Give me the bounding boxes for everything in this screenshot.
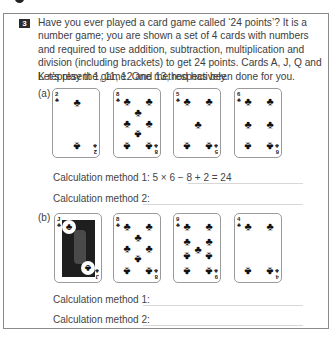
club-icon: ♣	[62, 220, 76, 234]
card-index: 4♣	[237, 216, 241, 228]
club-icon: ♣	[183, 251, 190, 262]
part-b-label: (b)	[38, 212, 50, 223]
club-icon: ♣	[205, 266, 212, 277]
club-icon: ♣	[194, 119, 201, 130]
club-icon: ♣	[73, 97, 80, 108]
club-icon: ♣	[134, 107, 141, 118]
answer-line[interactable]	[143, 204, 303, 205]
jack-face-image: ♣ ♣	[62, 220, 95, 277]
card-index: 9♣	[176, 216, 180, 228]
club-icon: ♣	[205, 221, 212, 232]
card-index: 8♣	[116, 216, 120, 228]
answer-line[interactable]	[143, 305, 303, 306]
club-icon: ♣	[183, 96, 190, 107]
club-icon: ♣	[205, 141, 212, 152]
card-b4: 4♣ ♣ ♣ ♣ ♣ 4♣	[234, 213, 282, 283]
club-icon: ♣	[145, 118, 152, 129]
card-b2: 8♣ ♣ ♣ ♣ ♣ ♣ ♣ ♣ ♣ 8♣	[113, 213, 161, 283]
club-icon: ♣	[266, 96, 273, 107]
club-icon: ♣	[266, 119, 273, 130]
club-icon: ♣	[123, 141, 130, 152]
question-number-badge: 3	[19, 19, 30, 28]
card-a2: 8♣ ♣ ♣ ♣ ♣ ♣ ♣ ♣ ♣ 8♣	[113, 88, 161, 158]
club-icon: ♣	[123, 96, 130, 107]
club-icon: ♣	[134, 232, 141, 243]
club-icon: ♣	[183, 141, 190, 152]
card-index: 4♣	[275, 268, 279, 280]
card-a1: 2♣ ♣ ♣ 2♣	[52, 88, 100, 158]
card-index: 5♣	[176, 91, 180, 103]
method-label: Calculation method 1:	[53, 294, 150, 305]
club-icon: ♣	[205, 236, 212, 247]
club-icon: ♣	[205, 96, 212, 107]
card-index: 8♣	[116, 91, 120, 103]
club-icon: ♣	[134, 254, 141, 265]
club-icon: ♣	[244, 96, 251, 107]
answer-line[interactable]	[143, 325, 303, 326]
club-icon: ♣	[244, 221, 251, 232]
part-a-method-1: Calculation method 1: 5 × 6 − 8 + 2 = 24	[53, 172, 231, 183]
club-icon: ♣	[145, 266, 152, 277]
club-icon: ♣	[123, 118, 130, 129]
club-icon: ♣	[145, 243, 152, 254]
club-icon: ♣	[145, 221, 152, 232]
club-icon: ♣	[81, 261, 95, 275]
club-icon: ♣	[266, 221, 273, 232]
method-label: Calculation method 2:	[53, 193, 150, 204]
card-index: 9♣	[214, 268, 218, 280]
card-index: 5♣	[214, 143, 218, 155]
method-label: Calculation method 2:	[53, 314, 150, 325]
part-b-method-2: Calculation method 2:	[53, 314, 150, 325]
club-icon: ♣	[123, 243, 130, 254]
part-a-label: (a)	[38, 88, 50, 99]
club-icon: ♣	[244, 266, 251, 277]
answer-line[interactable]	[188, 183, 303, 184]
club-icon: ♣	[194, 244, 201, 255]
card-index: J♣	[57, 216, 61, 228]
question-lead-text: Let’s play the game. One method has been…	[38, 71, 295, 82]
club-icon: ♣	[244, 141, 251, 152]
card-a3: 5♣ ♣ ♣ ♣ ♣ ♣ 5♣	[173, 88, 221, 158]
card-b1: ♣ ♣ J♣ J♣	[54, 213, 102, 283]
bullet-marker	[15, 0, 24, 3]
method-label: Calculation method 1:	[53, 172, 150, 183]
club-icon: ♣	[266, 141, 273, 152]
club-icon: ♣	[266, 266, 273, 277]
part-b-method-1: Calculation method 1:	[53, 294, 150, 305]
club-icon: ♣	[134, 129, 141, 140]
card-index: 6♣	[237, 91, 241, 103]
card-index: 6♣	[275, 143, 279, 155]
club-icon: ♣	[183, 236, 190, 247]
card-index: 8♣	[154, 268, 158, 280]
club-icon: ♣	[123, 266, 130, 277]
club-icon: ♣	[145, 141, 152, 152]
card-index: 2♣	[93, 143, 97, 155]
card-b3: 9♣ ♣ ♣ ♣ ♣ ♣ ♣ ♣ ♣ ♣ 9♣	[173, 213, 221, 283]
card-a4: 6♣ ♣ ♣ ♣ ♣ ♣ ♣ 6♣	[234, 88, 282, 158]
part-a-method-2: Calculation method 2:	[53, 193, 150, 204]
club-icon: ♣	[205, 251, 212, 262]
club-icon: ♣	[145, 96, 152, 107]
card-index: 2♣	[55, 91, 59, 103]
card-index: J♣	[95, 268, 99, 280]
method-answer: 5 × 6 − 8 + 2 = 24	[153, 172, 232, 183]
club-icon: ♣	[73, 141, 80, 152]
card-index: 8♣	[154, 143, 158, 155]
club-icon: ♣	[123, 221, 130, 232]
club-icon: ♣	[183, 266, 190, 277]
club-icon: ♣	[183, 221, 190, 232]
club-icon: ♣	[244, 119, 251, 130]
